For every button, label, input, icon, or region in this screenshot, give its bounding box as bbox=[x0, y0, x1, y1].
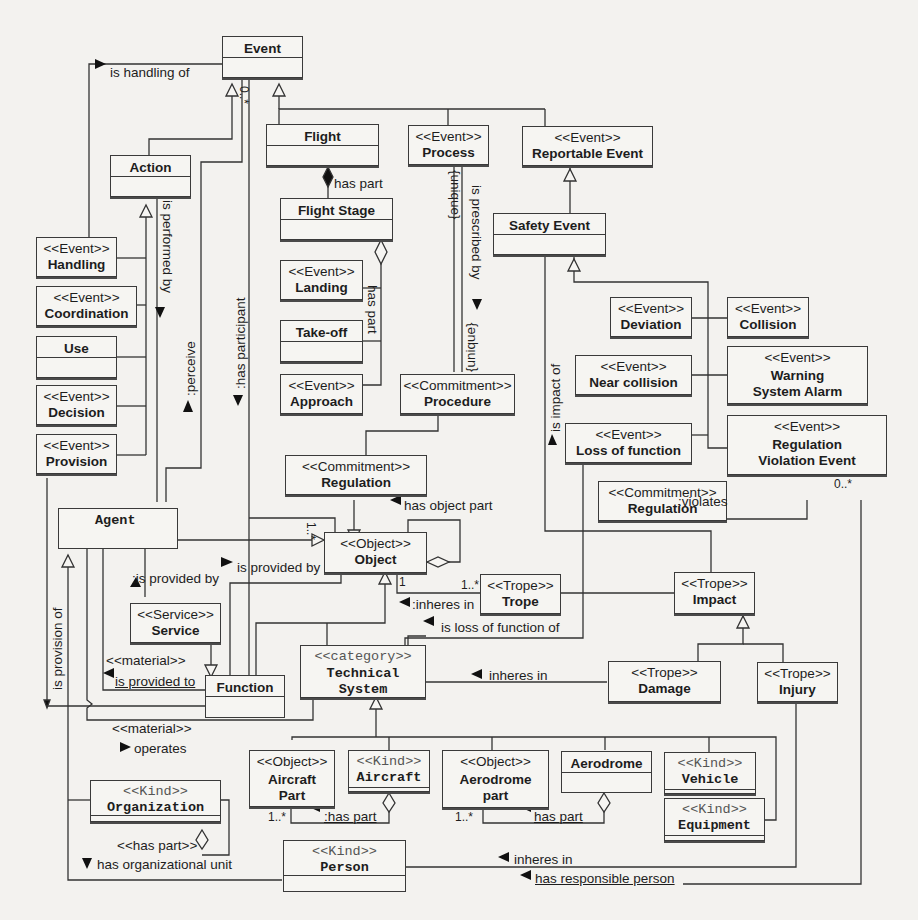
class-reportable-event: <<Event>> Reportable Event bbox=[522, 126, 653, 166]
class-service: <<Service>> Service bbox=[130, 603, 221, 643]
class-equipment: <<Kind>> Equipment bbox=[664, 798, 765, 841]
compartment-divider bbox=[281, 341, 362, 342]
label-unique-1: {unique} bbox=[448, 170, 463, 220]
class-trope: <<Trope>> Trope bbox=[480, 574, 561, 614]
class-process: <<Event>> Process bbox=[408, 125, 489, 165]
label-violates: :violates bbox=[678, 494, 728, 509]
label-operates: operates bbox=[134, 741, 187, 756]
class-vehicle: <<Kind>> Vehicle bbox=[664, 752, 756, 794]
compartment-divider bbox=[111, 176, 190, 177]
class-aerodrome-part: <<Object>> Aerodrome part bbox=[442, 750, 549, 808]
class-aircraft: <<Kind>> Aircraft bbox=[348, 750, 430, 792]
label-unique-2: {unique} bbox=[463, 322, 478, 372]
compartment-divider bbox=[281, 219, 392, 220]
class-coordination: <<Event>> Coordination bbox=[36, 286, 137, 326]
label-is-loss-of-function-of: is loss of function of bbox=[441, 620, 560, 635]
mult-aircraft-part: 1..* bbox=[268, 810, 286, 824]
label-is-provided-by-function: is provided by bbox=[237, 560, 320, 575]
compartment-divider bbox=[91, 815, 220, 816]
class-provision: <<Event>> Provision bbox=[36, 434, 117, 474]
label-has-part-aircraft: :has part bbox=[324, 809, 377, 824]
class-event: Event bbox=[222, 36, 303, 78]
compartment-divider bbox=[206, 696, 284, 697]
mult-rve-person: 0..* bbox=[834, 477, 852, 491]
class-person: <<Kind>> Person bbox=[283, 840, 406, 892]
label-has-part-aerodrome: has part bbox=[534, 809, 583, 824]
label-material-2: <<material>> bbox=[112, 721, 192, 736]
mult-event-participant: 0..* bbox=[237, 86, 251, 104]
class-handling: <<Event>> Handling bbox=[36, 237, 117, 277]
label-is-impact-of: is impact of bbox=[548, 364, 563, 432]
class-take-off: Take-off bbox=[280, 320, 363, 362]
class-procedure: <<Commitment>> Procedure bbox=[400, 374, 515, 414]
class-decision: <<Event>> Decision bbox=[36, 385, 117, 425]
compartment-divider bbox=[284, 875, 405, 876]
compartment-divider bbox=[223, 57, 302, 58]
uml-diagram: Event Action Flight <<Event>> Process <<… bbox=[0, 0, 918, 920]
label-is-handling-of: is handling of bbox=[110, 65, 190, 80]
label-has-part-flight: has part bbox=[334, 176, 383, 191]
label-is-provided-to: is provided to bbox=[115, 674, 195, 689]
label-is-provided-by-service: :is provided by bbox=[132, 571, 219, 586]
class-injury: <<Trope>> Injury bbox=[757, 662, 838, 702]
compartment-divider bbox=[562, 772, 651, 773]
compartment-divider bbox=[267, 145, 378, 146]
label-is-provision-of: is provision of bbox=[50, 607, 65, 690]
label-has-part-org: <<has part>> bbox=[117, 838, 197, 853]
mult-trope-object: 1..* bbox=[461, 578, 479, 592]
class-use: Use bbox=[36, 336, 117, 378]
class-near-collision: <<Event>> Near collision bbox=[575, 355, 692, 395]
mult-object-trope: 1 bbox=[399, 575, 406, 589]
class-loss-of-function: <<Event>> Loss of function bbox=[565, 423, 692, 463]
class-object: <<Object>> Object bbox=[324, 532, 427, 573]
class-function: Function bbox=[205, 675, 285, 718]
compartment-divider bbox=[665, 789, 755, 790]
label-perceive: :perceive bbox=[183, 341, 198, 396]
label-is-performed-by: is performed by bbox=[160, 200, 175, 293]
label-inheres-in-person: inheres in bbox=[514, 852, 573, 867]
class-organization: <<Kind>> Organization bbox=[90, 780, 221, 822]
compartment-divider bbox=[494, 234, 605, 235]
label-inheres-in-trope: :inheres in bbox=[412, 597, 474, 612]
label-inheres-in-damage: inheres in bbox=[489, 668, 548, 683]
label-has-part-stage: has part bbox=[365, 285, 380, 334]
class-action: Action bbox=[110, 155, 191, 197]
class-deviation: <<Event>> Deviation bbox=[610, 297, 692, 337]
label-has-object-part: has object part bbox=[404, 498, 493, 513]
class-regulation-top: <<Commitment>> Regulation bbox=[285, 455, 427, 495]
class-safety-event: Safety Event bbox=[493, 213, 606, 255]
compartment-divider bbox=[665, 835, 764, 836]
label-has-organizational-unit: has organizational unit bbox=[97, 857, 232, 872]
class-collision: <<Event>> Collision bbox=[727, 297, 809, 337]
label-is-prescribed-by: is prescribed by bbox=[469, 185, 484, 280]
label-has-responsible-person: has responsible person bbox=[535, 871, 675, 886]
compartment-divider bbox=[37, 357, 116, 358]
class-landing: <<Event>> Landing bbox=[280, 260, 363, 300]
mult-object-participant: 1..* bbox=[304, 522, 318, 540]
label-has-participant: :has participant bbox=[233, 297, 248, 389]
class-flight: Flight bbox=[266, 124, 379, 166]
class-damage: <<Trope>> Damage bbox=[608, 661, 721, 702]
class-aircraft-part: <<Object>> Aircraft Part bbox=[249, 750, 335, 807]
label-material-1: <<material>> bbox=[106, 653, 186, 668]
class-impact: <<Trope>> Impact bbox=[674, 572, 755, 614]
class-regulation-violation-event: <<Event>> Regulation Violation Event bbox=[727, 415, 887, 475]
class-aerodrome: Aerodrome bbox=[561, 751, 652, 793]
class-approach: <<Event>> Approach bbox=[280, 374, 363, 414]
class-agent: Agent bbox=[58, 508, 178, 549]
class-warning-system-alarm: <<Event>> Warning System Alarm bbox=[727, 346, 868, 404]
mult-aerodrome-part: 1..* bbox=[455, 810, 473, 824]
class-flight-stage: Flight Stage bbox=[280, 198, 393, 240]
compartment-divider bbox=[349, 787, 429, 788]
class-technical-system: <<category>> Technical System bbox=[300, 645, 426, 698]
